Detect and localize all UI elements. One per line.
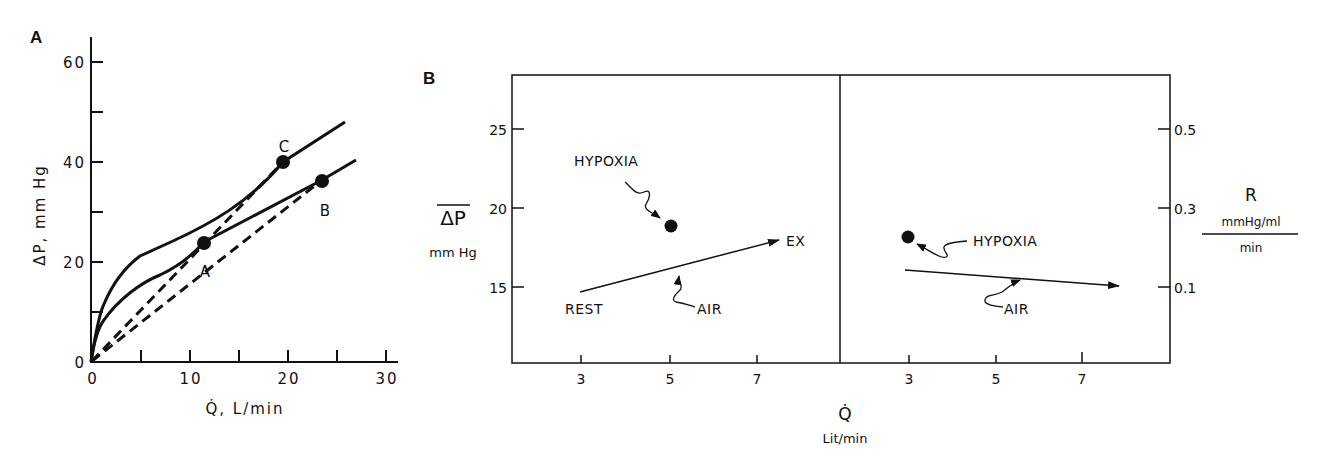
panel-b-right-air-label: AIR [1004,301,1029,317]
panel-a-ytick-20: 20 [63,254,86,272]
panel-b-xtick-left-7: 7 [753,371,762,387]
panel-b-left-y-label: ΔP [440,206,466,230]
panel-b-right-y-unit-top: mmHg/ml [1221,215,1280,229]
panel-a-xtick-30: 30 [375,370,398,388]
panel-b-x-label-symbol: Q̇ [838,404,851,424]
panel-a-ytick-0: 0 [74,354,86,372]
panel-b-left-air-label: AIR [697,301,722,317]
panel-b-right-hypoxia-label: HYPOXIA [973,233,1037,249]
panel-b-right-air-arrow [905,270,1119,286]
panel-b-right-hypoxia-point [902,231,915,244]
panel-b: B 25 20 15 0.5 0.3 0.1 3 [423,69,1298,446]
panel-a-ytick-40: 40 [63,154,86,172]
panel-b-ytick-15: 15 [489,280,507,296]
panel-a-xtick-0: 0 [87,370,99,388]
panel-a-x-label: Q̇, L/min [205,399,284,418]
panel-b-right-y-ticks [1158,129,1170,287]
panel-a-xtick-20: 20 [277,370,300,388]
panel-b-ex-label: EX [786,233,805,249]
panel-a-upper-curve [91,122,345,362]
panel-b-ytick-25: 25 [489,122,507,138]
panel-a-point-a [197,236,211,250]
panel-b-x-label-unit: Lit/min [823,431,868,446]
panel-a-label-b: B [320,202,330,220]
panel-b-rtick-0-3: 0.3 [1174,201,1196,217]
panel-b-ytick-20: 20 [489,201,507,217]
panel-b-frame [512,75,1170,363]
panel-a-label-a: A [200,263,211,281]
panel-a-label-c: C [279,138,289,156]
panel-b-right-hypoxia-arrow [917,241,967,257]
panel-b-left-hypoxia-label: HYPOXIA [574,153,638,169]
panel-a-point-b [315,174,329,188]
panel-b-left-air-pointer [673,276,695,307]
figure-canvas: A 0 20 40 60 0 10 20 30 [0,0,1321,465]
panel-b-letter: B [423,69,435,88]
panel-a-xtick-10: 10 [179,370,202,388]
panel-b-xtick-left-3: 3 [577,371,586,387]
panel-b-xtick-right-3: 3 [905,371,914,387]
panel-a-point-c [276,155,290,169]
panel-b-right-y-unit-bottom: min [1240,241,1263,255]
panel-b-left-y-unit: mm Hg [429,245,477,260]
panel-a-x-ticks [141,350,386,362]
panel-b-xtick-right-7: 7 [1078,371,1087,387]
panel-a-letter: A [30,28,42,47]
panel-a-ytick-60: 60 [63,54,86,72]
panel-b-right-y-label: R [1245,185,1257,205]
panel-b-rtick-0-5: 0.5 [1174,122,1196,138]
panel-b-x-ticks [581,352,1082,363]
panel-b-left-y-ticks [512,129,524,287]
panel-a: A 0 20 40 60 0 10 20 30 [30,28,399,418]
panel-b-rtick-0-1: 0.1 [1174,280,1196,296]
panel-b-xtick-right-5: 5 [992,371,1001,387]
panel-b-left-hypoxia-point [665,220,678,233]
panel-b-xtick-left-5: 5 [666,371,675,387]
panel-a-y-ticks [91,62,103,312]
panel-b-rest-label: REST [565,301,603,317]
panel-a-y-label: ΔP, mm Hg [31,164,49,266]
panel-b-left-air-arrow [580,240,779,292]
panel-b-left-hypoxia-arrow [625,182,660,218]
